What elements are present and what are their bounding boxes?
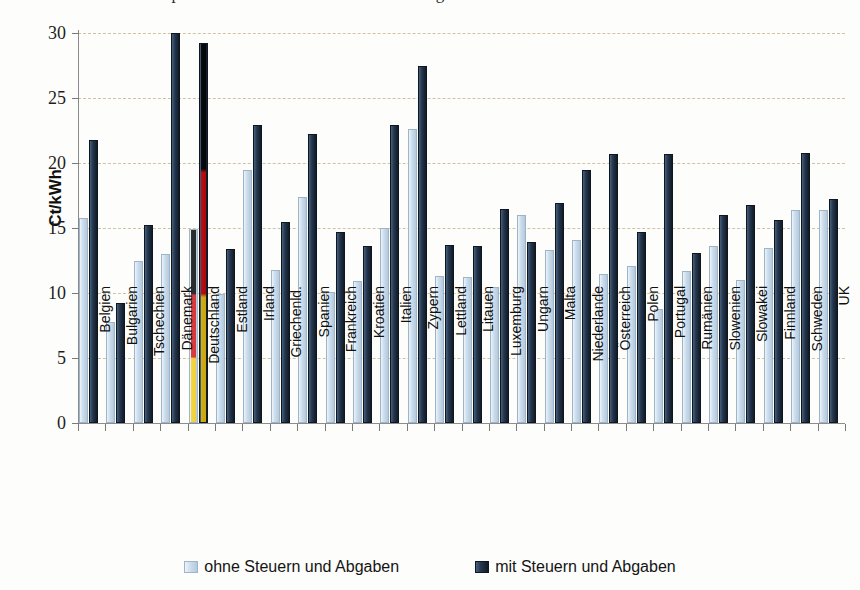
x-axis-tick-label: Finnland	[783, 286, 797, 436]
x-axis-tick-mark	[544, 424, 545, 431]
y-axis-tick-mark	[72, 228, 79, 229]
x-axis-tick-label: Estland	[235, 286, 249, 436]
x-axis-tick-mark	[242, 424, 243, 431]
legend-item[interactable]: mit Steuern und Abgaben	[475, 558, 676, 576]
x-axis-tick-mark	[845, 424, 846, 431]
y-axis-tick-mark	[72, 98, 79, 99]
x-axis-tick-label: Slowakei	[755, 286, 769, 436]
y-axis-tick-label: 20	[30, 154, 66, 172]
x-axis-tick-mark	[598, 424, 599, 431]
legend-label: ohne Steuern und Abgaben	[204, 558, 399, 576]
x-axis-tick-mark	[763, 424, 764, 431]
x-axis-tick-label: Rumänien	[700, 286, 714, 436]
x-axis-tick-mark	[735, 424, 736, 431]
legend-label: mit Steuern und Abgaben	[495, 558, 676, 576]
x-axis-tick-label: Schweden	[810, 286, 824, 436]
x-axis-tick-mark	[790, 424, 791, 431]
bar[interactable]	[527, 242, 536, 423]
y-axis-tick-mark	[72, 163, 79, 164]
x-axis-tick-mark	[105, 424, 106, 431]
x-axis-tick-label: Spanien	[317, 286, 331, 436]
x-axis-tick-label: Lettland	[454, 286, 468, 436]
x-axis-tick-mark	[681, 424, 682, 431]
x-axis-tick-mark	[407, 424, 408, 431]
x-axis-tick-mark	[188, 424, 189, 431]
legend-swatch-dark	[475, 561, 489, 573]
x-axis-tick-label: Tschechien	[152, 286, 166, 436]
y-axis-tick-label: 15	[30, 219, 66, 237]
x-axis-tick-label: Irland	[262, 286, 276, 436]
x-axis-tick-label: Belgien	[98, 286, 112, 436]
x-axis-tick-label: Zypern	[426, 286, 440, 436]
x-axis-tick-mark	[653, 424, 654, 431]
y-axis-tick-label: 30	[30, 24, 66, 42]
x-axis-tick-mark	[160, 424, 161, 431]
x-axis-tick-mark	[297, 424, 298, 431]
bar[interactable]	[79, 218, 88, 423]
y-axis-tick-label: 10	[30, 284, 66, 302]
x-axis-tick-label: Frankreich	[344, 286, 358, 436]
chart-legend: ohne Steuern und Abgabenmit Steuern und …	[0, 558, 860, 576]
x-axis-tick-label: Österreich	[618, 286, 632, 436]
y-axis-tick-mark	[72, 293, 79, 294]
x-axis-tick-label: Deutschland	[207, 286, 221, 436]
x-axis-tick-label: Malta	[563, 286, 577, 436]
x-axis-tick-mark	[352, 424, 353, 431]
x-axis-tick-label: Italien	[399, 286, 413, 436]
x-axis-tick-mark	[462, 424, 463, 431]
x-axis-tick-mark	[434, 424, 435, 431]
x-axis-tick-label: Dänemark	[180, 286, 194, 436]
y-axis-tick-label: 5	[30, 349, 66, 367]
x-axis-tick-label: Polen	[646, 286, 660, 436]
y-axis-tick-label: 0	[30, 414, 66, 432]
x-axis-tick-label: Griechenld.	[289, 286, 303, 436]
bar[interactable]	[89, 140, 98, 423]
x-axis-tick-mark	[379, 424, 380, 431]
x-axis-tick-label: UK	[837, 286, 851, 436]
x-axis-tick-mark	[215, 424, 216, 431]
x-axis-tick-mark	[78, 424, 79, 431]
x-axis-tick-mark	[325, 424, 326, 431]
y-axis-tick-mark	[72, 358, 79, 359]
bar[interactable]	[253, 125, 262, 423]
x-axis-tick-label: Bulgarien	[125, 286, 139, 436]
x-axis-tick-label: Kroatien	[372, 286, 386, 436]
bar[interactable]	[308, 134, 317, 423]
x-axis-tick-label: Luxemburg	[509, 286, 523, 436]
x-axis-tick-mark	[133, 424, 134, 431]
bar[interactable]	[637, 232, 646, 423]
x-axis-tick-mark	[489, 424, 490, 431]
x-axis-tick-label: Slowenien	[728, 286, 742, 436]
bar[interactable]	[226, 249, 235, 423]
y-axis-tick-label: 25	[30, 89, 66, 107]
x-axis-tick-mark	[818, 424, 819, 431]
x-axis-tick-mark	[516, 424, 517, 431]
x-axis-tick-label: Litauen	[481, 286, 495, 436]
x-axis-tick-mark	[626, 424, 627, 431]
x-axis-tick-label: Niederlande	[591, 286, 605, 436]
x-axis-tick-mark	[270, 424, 271, 431]
bar[interactable]	[390, 125, 399, 423]
x-axis-tick-mark	[708, 424, 709, 431]
bar-chart: Ct/kWh 051015202530 ohne Steuern und Abg…	[0, 0, 860, 590]
y-axis-tick-labels: 051015202530	[24, 0, 66, 590]
x-axis-tick-label: Ungarn	[536, 286, 550, 436]
y-axis-tick-mark	[72, 33, 79, 34]
x-axis-tick-mark	[571, 424, 572, 431]
x-axis-tick-label: Portugal	[673, 286, 687, 436]
legend-swatch-light	[184, 561, 198, 573]
bar[interactable]	[171, 33, 180, 423]
legend-item[interactable]: ohne Steuern und Abgaben	[184, 558, 399, 576]
